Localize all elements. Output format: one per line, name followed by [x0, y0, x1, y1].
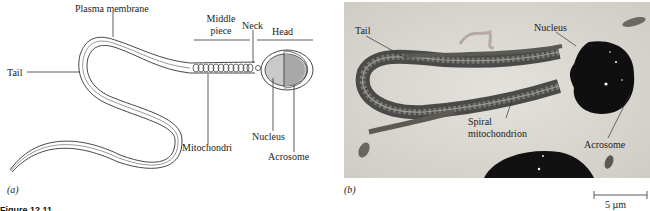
- tail-outer: [10, 37, 190, 170]
- label-middle-piece-line1: Middle: [204, 13, 238, 24]
- panel-label-a: (a): [7, 184, 19, 195]
- label-mitochondri: Mitochondri: [182, 142, 232, 153]
- micro-label-nucleus: Nucleus: [534, 22, 567, 33]
- label-head: Head: [272, 26, 293, 37]
- micro-label-spiral: Spiral: [468, 116, 492, 127]
- tail-inner: [12, 45, 190, 172]
- scale-bar-label: 5 µm: [605, 199, 626, 210]
- label-plasma-membrane: Plasma membrane: [75, 3, 149, 14]
- micro-nucleus: [570, 41, 634, 114]
- micro-label-tail: Tail: [355, 25, 370, 36]
- label-acrosome: Acrosome: [268, 151, 309, 162]
- sperm-head: [261, 50, 313, 90]
- figure-caption: Figure 12.11: [0, 205, 52, 211]
- micro-label-acrosome: Acrosome: [584, 139, 625, 150]
- label-middle-piece-line2: piece: [204, 25, 238, 36]
- label-tail: Tail: [7, 67, 22, 78]
- label-neck: Neck: [242, 20, 263, 31]
- panel-label-b: (b): [344, 184, 356, 195]
- electron-micrograph: Tail Nucleus Spiral mitochondrion Acroso…: [344, 2, 650, 178]
- mitochondria-spiral: [193, 64, 261, 72]
- micro-label-mitochondrion: mitochondrion: [468, 128, 527, 139]
- label-nucleus: Nucleus: [252, 131, 285, 142]
